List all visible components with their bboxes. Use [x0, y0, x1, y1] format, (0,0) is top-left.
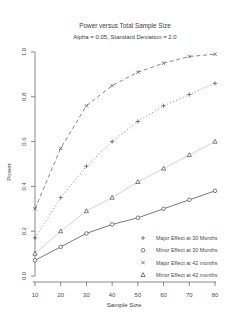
x-tick-label: 70 [186, 292, 193, 298]
circle-marker [136, 216, 140, 220]
data-series [33, 53, 217, 263]
circle-marker [213, 189, 217, 193]
plus-marker [161, 104, 165, 108]
x-marker [141, 261, 144, 264]
x-tick-label: 20 [57, 292, 64, 298]
plus-marker [33, 236, 37, 240]
x-tick-label: 50 [135, 292, 142, 298]
series-line [35, 83, 215, 238]
legend: Major Effect at 30 MonthsMinor Effect at… [141, 235, 218, 278]
triangle-marker [136, 180, 140, 184]
legend-label: Major Effect at 42 months [156, 260, 218, 266]
y-tick-label: 0.2 [21, 227, 27, 235]
legend-label: Minor Effect at 42 months [156, 272, 218, 278]
circle-marker [187, 198, 191, 202]
circle-marker [59, 245, 63, 249]
y-tick-label: 0.0 [21, 271, 27, 280]
plus-marker [59, 196, 63, 200]
x-tick-label: 40 [109, 292, 116, 298]
plus-marker [141, 236, 145, 240]
x-tick-label: 60 [160, 292, 167, 298]
power-curve-figure: Power versus Total Sample Size Alpha = 0… [0, 0, 232, 325]
power-curve-chart: Power versus Total Sample Size Alpha = 0… [0, 0, 232, 325]
x-tick-label: 10 [32, 292, 39, 298]
circle-marker [141, 249, 145, 253]
x-marker [85, 104, 88, 107]
y-tick-label: 1.0 [21, 47, 27, 56]
plus-marker [213, 81, 217, 85]
y-tick-label: 0.8 [21, 92, 27, 101]
y-tick-label: 0.6 [21, 137, 27, 146]
x-marker [59, 147, 62, 150]
plus-marker [136, 119, 140, 123]
legend-label: Minor Effect at 30 Months [156, 247, 218, 253]
legend-label: Major Effect at 30 Months [156, 235, 218, 241]
x-axis-label: Sample Size [107, 301, 142, 308]
plus-marker [187, 92, 191, 96]
triangle-marker [213, 139, 217, 143]
triangle-marker [110, 195, 114, 199]
plus-marker [84, 164, 88, 168]
triangle-marker [84, 209, 88, 213]
x-marker [110, 84, 113, 87]
chart-title: Power versus Total Sample Size [79, 22, 171, 30]
circle-marker [85, 232, 89, 236]
y-axis-label: Power [5, 163, 12, 181]
circle-marker [110, 223, 114, 227]
chart-subtitle: Alpha = 0.05, Standard Deviation = 2.0 [73, 34, 177, 40]
triangle-marker [187, 153, 191, 157]
triangle-marker [161, 166, 165, 170]
y-tick-label: 0.4 [21, 182, 27, 191]
circle-marker [33, 259, 37, 263]
triangle-marker [59, 229, 63, 233]
x-tick-label: 30 [83, 292, 90, 298]
circle-marker [162, 207, 166, 211]
triangle-marker [141, 273, 145, 277]
x-tick-label: 80 [212, 292, 219, 298]
